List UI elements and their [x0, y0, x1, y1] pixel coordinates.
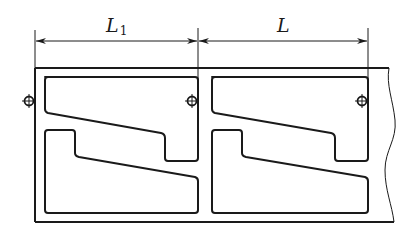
pilot-hole-icon — [355, 94, 369, 108]
unit-1 — [45, 77, 198, 213]
dimension-label-l: L — [277, 16, 290, 35]
break-line — [385, 68, 395, 222]
strip-frame — [35, 68, 395, 222]
unit-2-upper-part — [212, 77, 368, 161]
extension-lines — [35, 28, 368, 100]
unit-1-upper-part — [45, 77, 198, 161]
dimension-label-l1: L1 — [106, 16, 127, 37]
pilot-hole-icon — [185, 94, 199, 108]
unit-2 — [212, 77, 368, 213]
dimension-label-l1-subscript: 1 — [120, 24, 128, 38]
pilot-holes — [22, 94, 369, 108]
unit-1-lower-part — [45, 130, 198, 213]
strip-layout-diagram — [0, 0, 417, 244]
unit-2-lower-part — [212, 130, 368, 213]
pilot-hole-icon — [22, 94, 36, 108]
dimension-label-l-main: L — [277, 14, 290, 36]
dimension-label-l1-main: L — [106, 14, 119, 36]
